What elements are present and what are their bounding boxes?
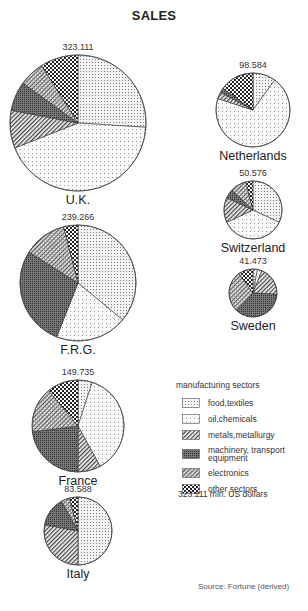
pie-switzerland <box>222 179 284 241</box>
legend-item-machinery: machinery, transport equipment <box>176 443 308 465</box>
pie-total-value: 323.111 <box>48 42 108 52</box>
pie-frg <box>18 223 138 343</box>
legend-swatch-metals <box>182 430 200 440</box>
pie-sweden <box>227 267 279 319</box>
legend-item-oil: oil,chemicals <box>176 411 308 427</box>
pie-total-value: 98.584 <box>223 60 283 70</box>
legend-item-electronics: electronics <box>176 465 308 481</box>
unit-note: 323.111 mln. US dollars <box>178 489 267 499</box>
pie-country-label: F.R.G. <box>28 343 128 357</box>
pie-country-label: Netherlands <box>203 149 303 163</box>
legend-label: metals,metallurgy <box>208 431 275 440</box>
legend: manufacturing sectors food,textilesoil,c… <box>176 380 308 497</box>
pie-total-value: 239.266 <box>48 212 108 222</box>
slice-machinery <box>32 426 78 472</box>
pie-italy <box>42 495 114 567</box>
pie-country-label: U.K. <box>28 193 128 207</box>
legend-swatch-oil <box>182 414 200 424</box>
chart-title: SALES <box>0 8 308 23</box>
pie-total-value: 41.473 <box>223 256 283 266</box>
legend-label: oil,chemicals <box>208 415 257 424</box>
pie-total-value: 50.576 <box>223 168 283 178</box>
pie-uk <box>8 53 148 193</box>
legend-item-food: food,textiles <box>176 395 308 411</box>
legend-label: machinery, transport equipment <box>208 446 308 463</box>
slice-metals <box>44 525 78 565</box>
legend-swatch-food <box>182 398 200 408</box>
pie-total-value: 149.735 <box>48 367 108 377</box>
legend-swatch-electronics <box>182 468 200 478</box>
slice-food <box>78 497 112 565</box>
pie-country-label: Switzerland <box>203 241 303 255</box>
pie-total-value: 83.588 <box>48 484 108 494</box>
legend-title: manufacturing sectors <box>176 380 308 390</box>
legend-label: electronics <box>208 469 249 478</box>
pie-country-label: Sweden <box>203 319 303 333</box>
legend-swatch-machinery <box>182 449 200 459</box>
pie-country-label: Italy <box>28 567 128 581</box>
legend-item-metals: metals,metallurgy <box>176 427 308 443</box>
legend-label: food,textiles <box>208 399 253 408</box>
pie-netherlands <box>214 71 292 149</box>
slice-food <box>78 55 146 127</box>
pie-france <box>30 378 126 474</box>
source-note: Source: Fortune (derived) <box>198 582 289 591</box>
